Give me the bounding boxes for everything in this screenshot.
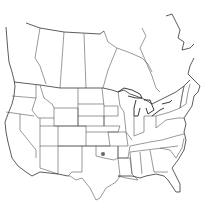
marker-layer — [0, 0, 210, 208]
range-map — [0, 0, 210, 208]
occurrence-marker-oklahoma[interactable] — [101, 152, 105, 156]
